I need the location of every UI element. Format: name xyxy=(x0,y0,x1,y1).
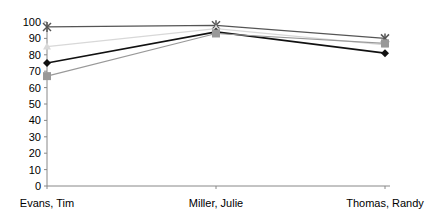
x-category-label: Miller, Julie xyxy=(189,197,243,209)
series-group xyxy=(43,20,389,80)
y-tick-label: 60 xyxy=(29,82,41,94)
y-tick-label: 100 xyxy=(23,16,41,28)
x-category-label: Thomas, Randy xyxy=(346,197,424,209)
x-category-label: Evans, Tim xyxy=(20,197,74,209)
y-tick-label: 50 xyxy=(29,98,41,110)
y-tick-label: 10 xyxy=(29,164,41,176)
y-axis: 0102030405060708090100 xyxy=(23,16,47,192)
y-tick-label: 30 xyxy=(29,131,41,143)
diamond-marker xyxy=(43,59,51,67)
y-tick-label: 0 xyxy=(35,180,41,192)
x-axis: Evans, TimMiller, JulieThomas, Randy xyxy=(20,186,425,209)
square-marker xyxy=(212,29,220,37)
y-tick-label: 20 xyxy=(29,147,41,159)
y-tick-label: 40 xyxy=(29,114,41,126)
y-tick-label: 90 xyxy=(29,32,41,44)
y-tick-label: 70 xyxy=(29,65,41,77)
square-marker xyxy=(381,39,389,47)
square-marker xyxy=(43,72,51,80)
line-chart: 0102030405060708090100 Evans, TimMiller,… xyxy=(0,0,441,219)
diamond-marker xyxy=(381,49,389,57)
y-tick-label: 80 xyxy=(29,49,41,61)
